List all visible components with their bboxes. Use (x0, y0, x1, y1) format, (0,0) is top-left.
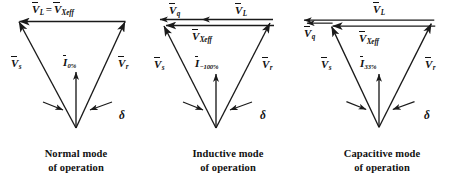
label-current-subscript: −100% (200, 63, 219, 70)
caption-line-2: of operation (0, 161, 152, 175)
label-vs-symbol: V (11, 58, 18, 69)
label-current: I0% (63, 57, 76, 68)
label-vxeff-symbol: V (359, 33, 366, 44)
label-vxeff: VXeff (192, 31, 212, 42)
label-vq-subscript: q (177, 10, 181, 18)
caption-line-1: Capacitive mode (303, 147, 455, 161)
phasor-panel-normal-mode: VL=VXeff Vs Vr I0% δ Normal mode of oper… (0, 0, 152, 192)
label-current-symbol: I (360, 58, 364, 69)
label-vs: Vs (321, 59, 331, 70)
label-vl: VL (235, 5, 247, 16)
angle-arrow-right (230, 102, 252, 110)
label-vl-symbol: V (373, 4, 380, 15)
label-vs-symbol: V (154, 59, 161, 70)
phasor-panel-capacitive-mode: VL Vq VXeff Vs Vr I33% δ Capacitive mode… (303, 0, 455, 192)
label-vq-symbol: V (169, 5, 176, 16)
label-vr: Vr (118, 58, 128, 69)
label-vl: VL (373, 4, 385, 15)
panel-caption-inductive-mode: Inductive mode of operation (152, 147, 304, 174)
vector-vr (76, 22, 125, 128)
caption-line-1: Normal mode (0, 147, 152, 161)
label-vl-subscript: L (40, 9, 44, 17)
label-vs-subscript: s (162, 64, 165, 72)
caption-line-2: of operation (303, 161, 455, 175)
label-vr: Vr (425, 59, 435, 70)
panel-caption-capacitive-mode: Capacitive mode of operation (303, 147, 455, 174)
label-vs-subscript: s (329, 64, 332, 72)
label-vs-subscript: s (19, 63, 22, 71)
label-vl-subscript: L (381, 9, 385, 17)
label-vs: Vs (11, 58, 21, 69)
label-vxeff-subscript: Xeff (367, 38, 379, 46)
label-vxeff-symbol: V (192, 31, 199, 42)
label-current-symbol: I (63, 57, 67, 68)
label-vr-subscript: r (126, 63, 129, 71)
label-vs-symbol: V (321, 59, 328, 70)
phasor-panel-inductive-mode: Vq VL VXeff Vs Vr I−100% δ Inductive mod… (152, 0, 304, 192)
label-current-symbol: I (195, 58, 199, 69)
vector-vs (19, 22, 76, 128)
label-vr-subscript: r (270, 64, 273, 72)
phasor-vector-diagram-normal (0, 0, 152, 145)
angle-arrow-left (183, 102, 203, 110)
label-vxeff-subscript: Xeff (200, 36, 212, 44)
label-vxeff-subscript: Xeff (62, 9, 74, 17)
label-vq: Vq (304, 28, 315, 39)
panel-caption-normal-mode: Normal mode of operation (0, 147, 152, 174)
label-vq: Vq (169, 5, 180, 16)
label-vl-symbol: V (32, 4, 39, 15)
caption-line-1: Inductive mode (152, 147, 304, 161)
label-vq-symbol: V (304, 28, 311, 39)
label-vq-subscript: q (312, 33, 316, 41)
label-vr-symbol: V (262, 59, 269, 70)
label-current: I−100% (195, 58, 218, 69)
label-delta-angle: δ (260, 110, 266, 122)
angle-arrow-right (90, 102, 112, 110)
angle-arrow-right (393, 102, 415, 110)
label-vr-symbol: V (425, 59, 432, 70)
label-vr: Vr (262, 59, 272, 70)
label-vl-equals-vxeff: VL=VXeff (32, 4, 74, 15)
label-vl-symbol: V (235, 5, 242, 16)
label-current-subscript: 33% (365, 63, 377, 70)
caption-line-2: of operation (152, 161, 304, 175)
label-current: I33% (360, 58, 376, 69)
label-vl-subscript: L (243, 10, 247, 18)
label-vs: Vs (154, 59, 164, 70)
label-vr-symbol: V (118, 58, 125, 69)
label-current-subscript: 0% (68, 62, 77, 69)
phasor-vector-diagram-capacitive (303, 0, 455, 145)
phasor-vector-diagram-inductive (152, 0, 304, 145)
label-equals-sign: = (44, 3, 54, 15)
label-vxeff-symbol: V (54, 4, 61, 15)
angle-arrow-left (346, 102, 366, 110)
label-vxeff: VXeff (359, 33, 379, 44)
angle-arrow-left (43, 102, 63, 110)
label-delta-angle: δ (424, 110, 430, 122)
phasor-diagram-figure: VL=VXeff Vs Vr I0% δ Normal mode of oper… (0, 0, 457, 192)
label-vr-subscript: r (433, 64, 436, 72)
label-delta-angle: δ (119, 110, 125, 122)
